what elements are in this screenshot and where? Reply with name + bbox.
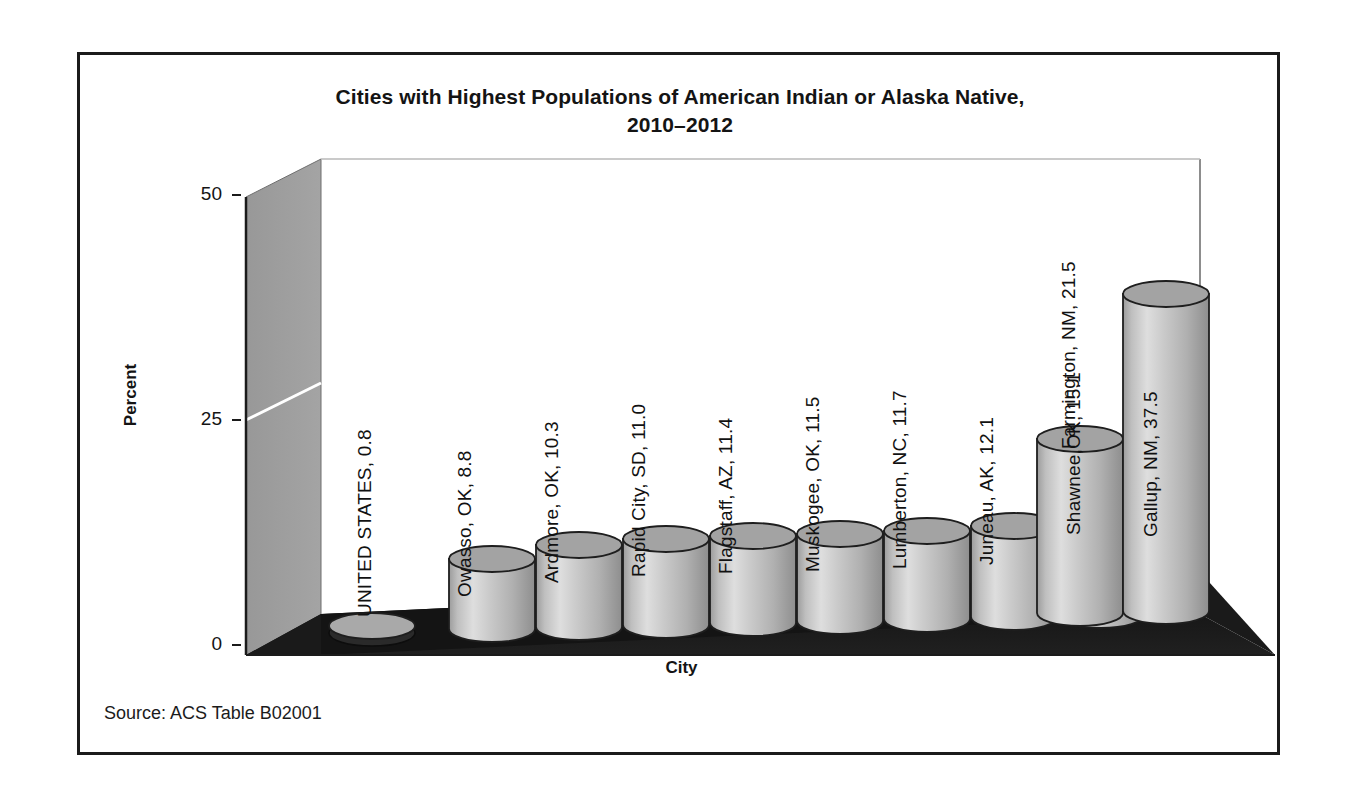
plot-area	[80, 55, 1283, 758]
y-tick-label-25: 25	[162, 408, 222, 430]
chart-title-line-1: Cities with Highest Populations of Ameri…	[210, 83, 1150, 111]
left-side-wall	[246, 159, 321, 655]
chart-title: Cities with Highest Populations of Ameri…	[210, 83, 1150, 138]
figure-frame: Cities with Highest Populations of Ameri…	[77, 52, 1280, 755]
y-tick-mark-0	[232, 644, 241, 646]
bar-gallup-nm	[1123, 281, 1209, 624]
bar-label-united-states: UNITED STATES, 0.8	[354, 429, 376, 617]
bar-united-states	[329, 613, 415, 646]
bar-label-owasso-ok: Owasso, OK, 8.8	[454, 450, 476, 597]
y-tick-label-0: 0	[162, 633, 222, 655]
bar-label-lumberton-nc: Lumberton, NC, 11.7	[889, 390, 911, 569]
bar-label-flagstaff-az: Flagstaff, AZ, 11.4	[715, 418, 737, 574]
bar-label-rapid-city-sd: Rapid City, SD, 11.0	[628, 404, 650, 577]
plot-3d-canvas	[80, 55, 1283, 758]
bar-label-gallup-nm: Gallup, NM, 37.5	[1140, 391, 1162, 537]
gridline-25-sidewall	[246, 383, 321, 420]
bar-label-muskogee-ok: Muskogee, OK, 11.5	[802, 397, 824, 572]
x-axis-title: City	[80, 658, 1283, 678]
bar-label-ardmore-ok: Ardmore, OK, 10.3	[541, 421, 563, 583]
source-note: Source: ACS Table B02001	[104, 703, 322, 724]
chart-title-line-2: 2010–2012	[210, 111, 1150, 139]
y-axis-title: Percent	[121, 335, 141, 455]
floor	[246, 572, 1275, 655]
bar-label-juneau-ak: Juneau, AK, 12.1	[976, 417, 998, 565]
bar-label-farmington-nm: Farmington, NM, 21.5	[1058, 261, 1080, 449]
figure-page: Cities with Highest Populations of Ameri…	[0, 0, 1357, 806]
y-tick-label-50: 50	[162, 183, 222, 205]
y-tick-mark-50	[232, 194, 241, 196]
y-tick-mark-25	[232, 419, 241, 421]
